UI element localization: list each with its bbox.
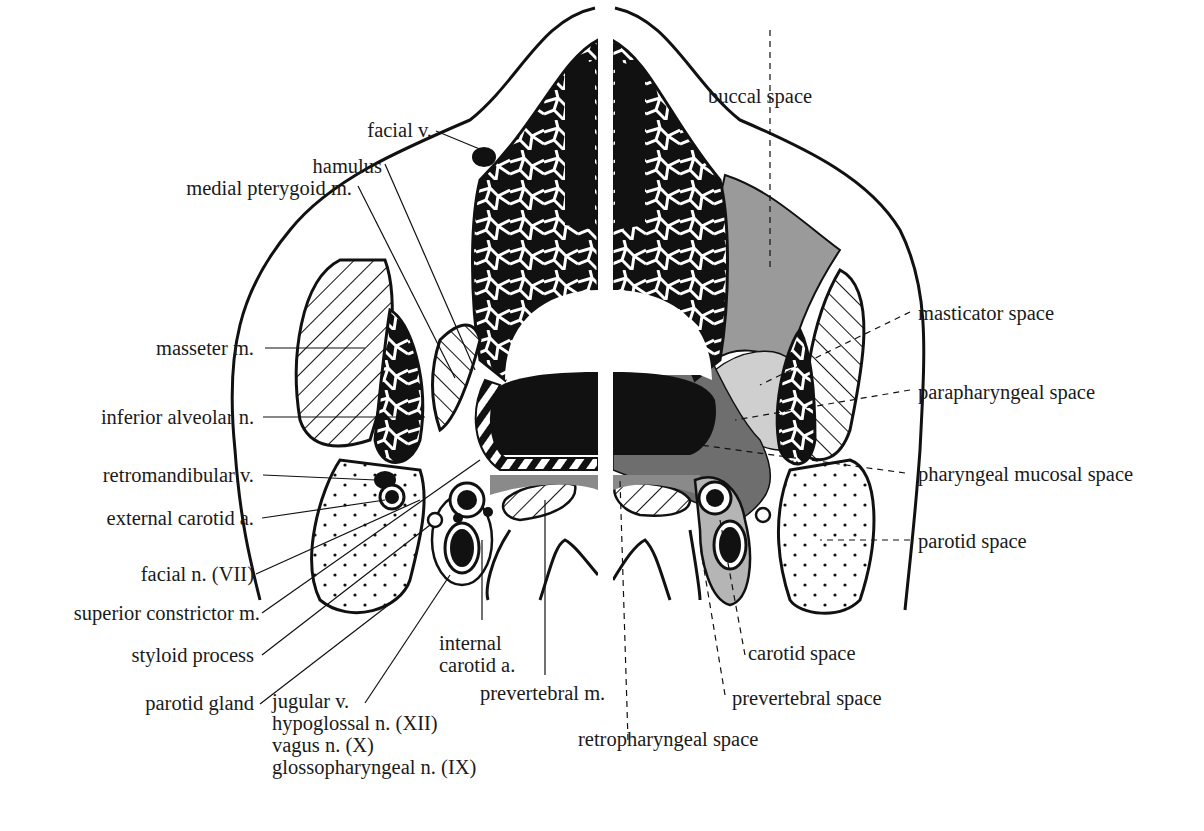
label-retropharyngeal-space: retropharyngeal space <box>578 728 758 750</box>
label-facial-v: facial v. <box>367 119 432 141</box>
label-buccal-space: buccal space <box>708 85 812 107</box>
label-facial-n: facial n. (VII) <box>141 563 254 585</box>
label-retromandibular: retromandibular v. <box>103 464 254 486</box>
label-glossopharyngeal-n: glossopharyngeal n. (IX) <box>272 756 476 778</box>
label-nerve-group: jugular v. hypoglossal n. (XII) vagus n.… <box>272 690 476 778</box>
label-pharyngeal-mucosal-space: pharyngeal mucosal space <box>918 463 1133 485</box>
label-internal-carotid-line1: internal <box>439 632 515 654</box>
label-jugular-v: jugular v. <box>272 690 476 712</box>
label-prevertebral-space: prevertebral space <box>732 687 882 709</box>
figure-caption-clipped: ▬▬▬▬▬▬▬▬▬▬▬▬▬▬ <box>295 815 895 831</box>
label-inferior-alveolar: inferior alveolar n. <box>101 406 254 428</box>
label-parapharyngeal-space: parapharyngeal space <box>918 381 1095 403</box>
label-prevertebral-m: prevertebral m. <box>480 682 605 704</box>
label-external-carotid: external carotid a. <box>107 507 254 529</box>
label-medial-pterygoid: medial pterygoid m. <box>186 177 352 199</box>
label-internal-carotid: internal carotid a. <box>439 632 515 676</box>
label-internal-carotid-line2: carotid a. <box>439 654 515 676</box>
label-carotid-space: carotid space <box>748 642 856 664</box>
label-hypoglossal-n: hypoglossal n. (XII) <box>272 712 476 734</box>
label-styloid-process: styloid process <box>132 644 254 666</box>
label-masticator-space: masticator space <box>918 302 1054 324</box>
label-parotid-gland: parotid gland <box>145 692 254 714</box>
label-vagus-n: vagus n. (X) <box>272 734 476 756</box>
label-parotid-space: parotid space <box>918 530 1027 552</box>
label-masseter: masseter m. <box>156 337 254 359</box>
label-hamulus: hamulus <box>313 155 382 177</box>
label-superior-constrictor: superior constrictor m. <box>74 602 260 624</box>
